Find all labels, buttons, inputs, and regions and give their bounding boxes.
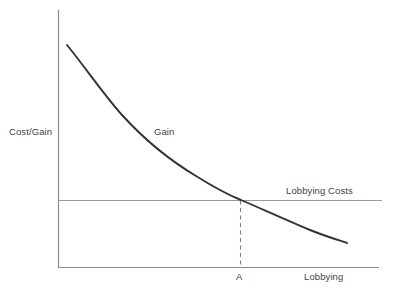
y-axis-title-label: Cost/Gain (9, 126, 52, 138)
optimum-point-label: A (236, 271, 242, 283)
gain-curve (67, 45, 347, 243)
chart-plot-area (0, 0, 394, 292)
chart-figure: Cost/Gain Gain Lobbying Costs A Lobbying (0, 0, 394, 292)
x-axis-title-label: Lobbying (304, 271, 343, 283)
gain-curve-label: Gain (154, 126, 174, 138)
lobbying-costs-label: Lobbying Costs (286, 185, 353, 197)
